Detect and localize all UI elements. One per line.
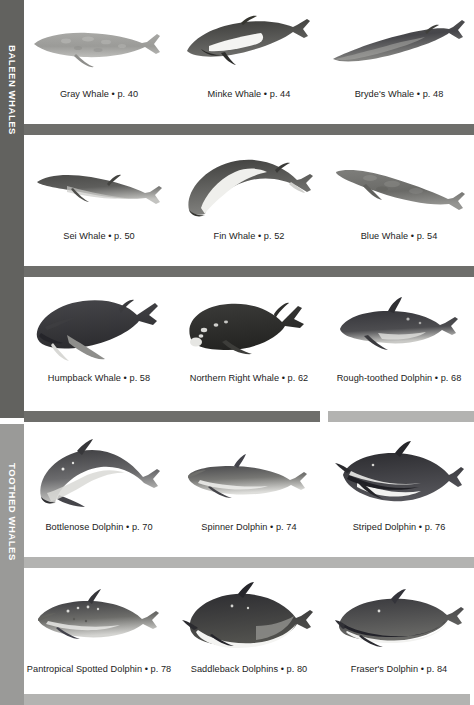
species-caption: Sei Whale • p. 50 <box>24 230 174 242</box>
species-cell-minke-whale[interactable]: Minke Whale • p. 44 <box>174 0 324 100</box>
species-caption: Striped Dolphin • p. 76 <box>324 521 474 533</box>
species-row-3: Humpback Whale • p. 58 <box>24 284 474 424</box>
pantropical-spotted-dolphin-illustration <box>24 575 174 663</box>
saddleback-dolphins-illustration <box>174 575 324 663</box>
species-caption: Rough-toothed Dolphin • p. 68 <box>324 372 474 384</box>
species-caption: Bottlenose Dolphin • p. 70 <box>24 521 174 533</box>
species-row-5: Pantropical Spotted Dolphin • p. 78 <box>24 575 474 705</box>
species-cell-blue-whale[interactable]: Blue Whale • p. 54 <box>324 142 474 242</box>
sei-whale-illustration <box>24 142 174 230</box>
row-divider-bar <box>24 124 474 135</box>
striped-dolphin-illustration <box>324 433 474 521</box>
species-cell-fin-whale[interactable]: Fin Whale • p. 52 <box>174 142 324 242</box>
species-caption: Saddleback Dolphins • p. 80 <box>174 663 324 675</box>
species-cell-bottlenose-dolphin[interactable]: Bottlenose Dolphin • p. 70 <box>24 433 174 533</box>
blue-whale-illustration <box>324 142 474 230</box>
row-divider-bar-toothed <box>328 411 474 422</box>
species-caption: Humpback Whale • p. 58 <box>24 372 174 384</box>
species-caption: Bryde's Whale • p. 48 <box>324 88 474 100</box>
species-cell-northern-right-whale[interactable]: Northern Right Whale • p. 62 <box>174 284 324 384</box>
fin-whale-illustration <box>174 142 324 230</box>
species-caption: Minke Whale • p. 44 <box>174 88 324 100</box>
section-rail-toothed: TOOTHED WHALES <box>0 424 24 705</box>
frasers-dolphin-illustration <box>324 575 474 663</box>
species-caption: Northern Right Whale • p. 62 <box>174 372 324 384</box>
species-cell-frasers-dolphin[interactable]: Fraser's Dolphin • p. 84 <box>324 575 474 675</box>
species-cell-saddleback-dolphins[interactable]: Saddleback Dolphins • p. 80 <box>174 575 324 675</box>
row-divider-bar-baleen <box>24 411 320 422</box>
species-caption: Blue Whale • p. 54 <box>324 230 474 242</box>
species-row-2: Sei Whale • p. 50 <box>24 142 474 277</box>
northern-right-whale-illustration <box>174 284 324 372</box>
species-caption: Spinner Dolphin • p. 74 <box>174 521 324 533</box>
row-divider-bar <box>24 266 474 277</box>
species-cell-sei-whale[interactable]: Sei Whale • p. 50 <box>24 142 174 242</box>
species-cell-pantropical-spotted-dolphin[interactable]: Pantropical Spotted Dolphin • p. 78 <box>24 575 174 675</box>
species-cell-brydes-whale[interactable]: Bryde's Whale • p. 48 <box>324 0 474 100</box>
species-cell-spinner-dolphin[interactable]: Spinner Dolphin • p. 74 <box>174 433 324 533</box>
species-cell-rough-toothed-dolphin[interactable]: Rough-toothed Dolphin • p. 68 <box>324 284 474 384</box>
row-divider-bar <box>24 694 470 705</box>
minke-whale-illustration <box>174 0 324 88</box>
species-caption: Gray Whale • p. 40 <box>24 88 174 100</box>
brydes-whale-illustration <box>324 0 474 88</box>
gray-whale-illustration <box>24 0 174 88</box>
species-caption: Fin Whale • p. 52 <box>174 230 324 242</box>
humpback-whale-illustration <box>24 284 174 372</box>
species-cell-gray-whale[interactable]: Gray Whale • p. 40 <box>24 0 174 100</box>
species-row-4: Bottlenose Dolphin • p. 70 <box>24 433 474 568</box>
species-row-1: Gray Whale • p. 40 <box>24 0 474 135</box>
bottlenose-dolphin-illustration <box>24 433 174 521</box>
rough-toothed-dolphin-illustration <box>324 284 474 372</box>
section-rail-toothed-label: TOOTHED WHALES <box>7 463 17 561</box>
species-caption: Fraser's Dolphin • p. 84 <box>324 663 474 675</box>
spinner-dolphin-illustration <box>174 433 324 521</box>
row-divider-bar <box>24 557 474 568</box>
species-cell-striped-dolphin[interactable]: Striped Dolphin • p. 76 <box>324 433 474 533</box>
section-rail: BALEEN WHALES TOOTHED WHALES <box>0 0 24 705</box>
species-grid: Gray Whale • p. 40 <box>24 0 474 705</box>
section-rail-baleen-label: BALEEN WHALES <box>7 45 17 135</box>
species-cell-humpback-whale[interactable]: Humpback Whale • p. 58 <box>24 284 174 384</box>
species-caption: Pantropical Spotted Dolphin • p. 78 <box>24 663 174 675</box>
section-rail-baleen: BALEEN WHALES <box>0 0 24 418</box>
